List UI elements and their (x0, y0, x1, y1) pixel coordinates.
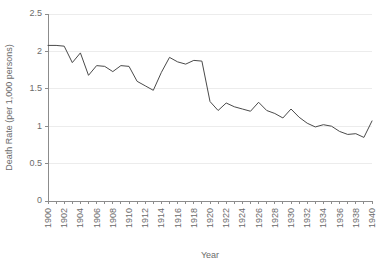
x-tick-label: 1922 (221, 208, 231, 228)
y-tick-label: 0 (37, 195, 42, 205)
x-tick-label: 1936 (335, 208, 345, 228)
x-tick-label: 1930 (286, 208, 296, 228)
chart-container: 00.511.522.5 190019021904190619081910191… (0, 0, 392, 268)
x-tick-label: 1916 (173, 208, 183, 228)
x-tick-label: 1918 (189, 208, 199, 228)
x-tick-label: 1926 (254, 208, 264, 228)
y-tick-label: 1 (37, 121, 42, 131)
x-tick-label: 1904 (75, 208, 85, 228)
x-tick-label: 1934 (318, 208, 328, 228)
x-tick-label: 1906 (92, 208, 102, 228)
x-tick-label: 1910 (124, 208, 134, 228)
x-axis-title: Year (201, 250, 219, 260)
x-tick-label: 1912 (140, 208, 150, 228)
y-axis-title: Death Rate (per 1,000 persons) (4, 44, 14, 171)
x-tick-label: 1924 (237, 208, 247, 228)
x-tick-label: 1932 (302, 208, 312, 228)
x-tick-label: 1938 (351, 208, 361, 228)
x-tick-label: 1940 (367, 208, 377, 228)
data-series-line (48, 45, 372, 137)
x-tick-label: 1928 (270, 208, 280, 228)
gridlines (48, 14, 372, 164)
y-axis-tick-labels: 00.511.522.5 (29, 8, 42, 205)
y-tick-label: 0.5 (29, 158, 42, 168)
x-tick-label: 1900 (43, 208, 53, 228)
line-chart: 00.511.522.5 190019021904190619081910191… (0, 0, 392, 268)
y-tick-label: 2 (37, 46, 42, 56)
x-tick-label: 1920 (205, 208, 215, 228)
y-tick-label: 1.5 (29, 83, 42, 93)
y-tick-label: 2.5 (29, 8, 42, 18)
x-tick-label: 1908 (108, 208, 118, 228)
x-tick-label: 1914 (156, 208, 166, 228)
x-tick-label: 1902 (59, 208, 69, 228)
x-axis-tick-labels: 1900190219041906190819101912191419161918… (43, 208, 377, 228)
